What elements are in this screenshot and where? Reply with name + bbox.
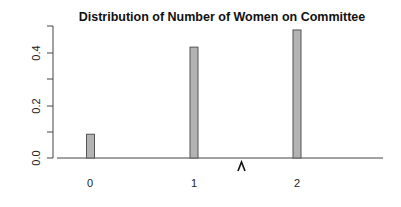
x-tick-label: 2 xyxy=(294,177,300,189)
y-tick-label: 0.4 xyxy=(30,45,42,60)
bar-1 xyxy=(190,47,198,158)
chart-title: Distribution of Number of Women on Commi… xyxy=(79,10,366,24)
x-tick-label: 1 xyxy=(191,177,197,189)
caret-annotation-icon xyxy=(238,162,245,171)
bars xyxy=(87,30,302,158)
bar-2 xyxy=(293,30,301,158)
y-axis: 0.0 0.2 0.4 xyxy=(30,26,53,166)
y-tick-label: 0.2 xyxy=(30,98,42,113)
bar-0 xyxy=(87,134,95,158)
y-tick-label: 0.0 xyxy=(30,150,42,165)
bar-chart: Distribution of Number of Women on Commi… xyxy=(0,0,401,207)
x-tick-label: 0 xyxy=(87,177,93,189)
